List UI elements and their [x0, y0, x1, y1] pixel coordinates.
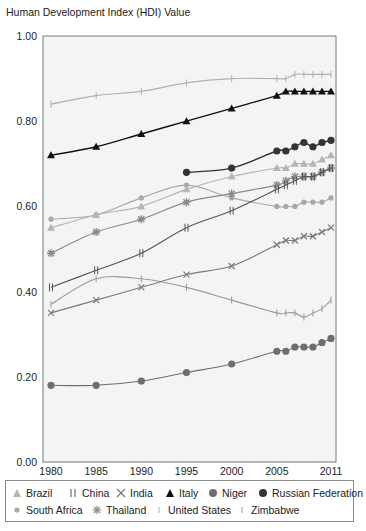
- x-axis: 1980198519901995200020052011: [39, 465, 342, 477]
- circle-marker: [47, 382, 54, 389]
- legend-label: Russian Federation: [272, 486, 363, 500]
- circle-marker: [292, 204, 297, 209]
- circle-icon: [258, 488, 268, 498]
- circle-marker: [282, 348, 289, 355]
- circle-marker: [93, 382, 100, 389]
- circle-marker: [327, 137, 334, 144]
- legend-label: Italy: [179, 486, 198, 500]
- y-tick-label: 0.60: [17, 200, 38, 212]
- legend-label: India: [130, 486, 153, 500]
- y-tick-label: 0.00: [17, 456, 38, 468]
- legend-item-china: China: [68, 486, 109, 500]
- legend-label: Thailand: [106, 503, 146, 517]
- bar-icon: [237, 505, 247, 515]
- circle-icon: [208, 488, 218, 498]
- circle-marker: [291, 343, 298, 350]
- legend-item-united-states: United States: [154, 503, 231, 517]
- bar-icon: [154, 505, 164, 515]
- circle-marker: [228, 164, 235, 171]
- circle-marker: [183, 169, 190, 176]
- x-tick-label: 2005: [265, 465, 289, 477]
- circle-marker: [300, 139, 307, 146]
- circle-marker: [283, 204, 288, 209]
- circle-marker: [282, 147, 289, 154]
- x-tick-label: 2000: [220, 465, 244, 477]
- x-tick-label: 1985: [84, 465, 108, 477]
- legend-label: China: [82, 486, 109, 500]
- circle-marker: [310, 200, 315, 205]
- legend-item-brazil: Brazil: [12, 486, 52, 500]
- y-tick-label: 0.20: [17, 371, 38, 383]
- legend-item-zimbabwe: Zimbabwe: [237, 503, 299, 517]
- asterisk-marker: [47, 249, 55, 257]
- circle-marker: [139, 195, 144, 200]
- y-tick-label: 0.80: [17, 115, 38, 127]
- asterisk-marker: [92, 228, 100, 236]
- double-bar-icon: [68, 488, 78, 498]
- legend-label: United States: [168, 503, 231, 517]
- legend-item-russian-federation: Russian Federation: [258, 486, 363, 500]
- circle-marker: [273, 348, 280, 355]
- circle-marker: [318, 339, 325, 346]
- legend-item-niger: Niger: [208, 486, 247, 500]
- x-tick-label: 2011: [320, 465, 343, 477]
- circle-marker: [274, 204, 279, 209]
- small-circle-icon: [12, 505, 22, 515]
- legend-item-south-africa: South Africa: [12, 503, 83, 517]
- asterisk-marker: [137, 215, 145, 223]
- circle-marker: [228, 360, 235, 367]
- legend-label: Brazil: [26, 486, 52, 500]
- circle-marker: [328, 195, 333, 200]
- legend-item-thailand: Thailand: [92, 503, 146, 517]
- circle-marker: [48, 217, 53, 222]
- circle-marker: [273, 147, 280, 154]
- x-tick-label: 1995: [175, 465, 199, 477]
- circle-marker: [318, 139, 325, 146]
- circle-marker: [291, 143, 298, 150]
- legend-label: Zimbabwe: [251, 503, 299, 517]
- y-axis: 0.000.200.400.600.801.00: [17, 30, 38, 468]
- y-tick-label: 0.40: [17, 286, 38, 298]
- circle-marker: [138, 377, 145, 384]
- asterisk-marker: [228, 190, 236, 198]
- x-tick-label: 1990: [130, 465, 154, 477]
- x-mark-icon: [116, 488, 126, 498]
- circle-marker: [183, 369, 190, 376]
- asterisk-marker: [182, 198, 190, 206]
- x-tick-label: 1980: [39, 465, 63, 477]
- circle-marker: [327, 335, 334, 342]
- legend-label: Niger: [222, 486, 247, 500]
- triangle-icon: [12, 488, 22, 498]
- asterisk-icon: [92, 505, 102, 515]
- plot-area: [43, 36, 336, 462]
- circle-marker: [319, 200, 324, 205]
- legend-label: South Africa: [26, 503, 83, 517]
- legend-item-italy: Italy: [165, 486, 198, 500]
- circle-marker: [300, 343, 307, 350]
- circle-marker: [309, 343, 316, 350]
- hdi-line-chart: 0.000.200.400.600.801.00 198019851990199…: [0, 0, 366, 480]
- legend-item-india: India: [116, 486, 153, 500]
- y-tick-label: 1.00: [17, 30, 38, 42]
- legend: Brazil China India Italy Niger Russian F…: [5, 480, 354, 522]
- circle-marker: [301, 200, 306, 205]
- circle-marker: [309, 143, 316, 150]
- triangle-icon: [165, 488, 175, 498]
